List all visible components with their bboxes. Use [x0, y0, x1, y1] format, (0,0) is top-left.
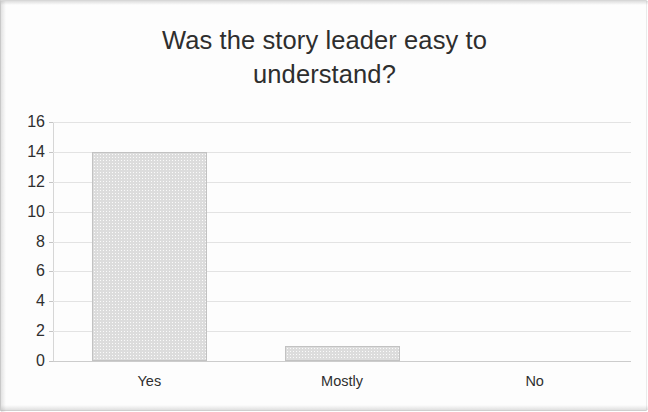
y-tick-mark-0 [49, 361, 53, 362]
y-tick-label-4: 4 [1, 293, 45, 309]
y-tick-label-8: 8 [1, 234, 45, 250]
y-tick-label-16: 16 [1, 114, 45, 130]
scan-edge-bottom [1, 405, 648, 410]
y-tick-label-6: 6 [1, 263, 45, 279]
y-tick-mark-4 [49, 301, 53, 302]
bar-yes [92, 152, 207, 361]
y-tick-label-2: 2 [1, 323, 45, 339]
x-tick-label-yes: Yes [138, 373, 162, 389]
x-tick-label-mostly: Mostly [321, 373, 363, 389]
gridline-0 [53, 361, 631, 362]
y-tick-label-0: 0 [1, 353, 45, 369]
y-axis-tick-labels: 1614121086420 [1, 1, 45, 412]
y-tick-mark-8 [49, 242, 53, 243]
scan-edge-top [1, 1, 648, 5]
y-tick-mark-2 [49, 331, 53, 332]
y-tick-mark-12 [49, 182, 53, 183]
bar-mostly [285, 346, 400, 361]
gridline-16 [53, 122, 631, 123]
chart-title: Was the story leader easy to understand? [41, 23, 608, 91]
y-tick-label-12: 12 [1, 174, 45, 190]
y-tick-mark-10 [49, 212, 53, 213]
plot-area [53, 122, 631, 361]
y-tick-mark-6 [49, 271, 53, 272]
y-tick-mark-16 [49, 122, 53, 123]
y-tick-label-10: 10 [1, 204, 45, 220]
y-tick-label-14: 14 [1, 144, 45, 160]
x-tick-label-no: No [525, 373, 544, 389]
y-tick-mark-14 [49, 152, 53, 153]
